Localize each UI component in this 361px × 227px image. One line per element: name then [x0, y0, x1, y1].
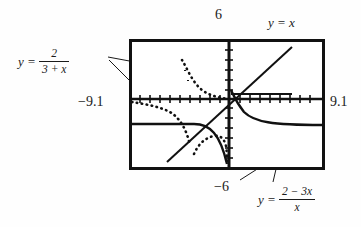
- viewport-xmin-label: −9.1: [78, 95, 103, 109]
- label-diagonal-line: y = x: [268, 16, 295, 29]
- fraction-bar-icon: [39, 61, 69, 62]
- label-bottom-right-function-fraction: 2 − 3x x: [279, 185, 315, 214]
- plot-svg: [132, 42, 322, 167]
- label-left-function: y = 2 3 + x: [18, 48, 69, 77]
- dotted-asymptote-marks: [185, 70, 188, 81]
- label-left-function-denominator: 3 + x: [39, 63, 69, 76]
- calculator-screen-plot-area: [132, 42, 322, 167]
- fraction-bar-icon: [279, 199, 315, 200]
- label-bottom-right-function-lhs: y =: [258, 192, 276, 207]
- viewport-ymin-label: −6: [214, 180, 229, 194]
- x-axis: [132, 95, 322, 103]
- label-bottom-right-function-denominator: x: [279, 201, 315, 214]
- label-left-function-fraction: 2 3 + x: [39, 47, 69, 76]
- label-left-function-lhs: y =: [18, 54, 36, 69]
- calculator-screen[interactable]: [129, 39, 325, 170]
- viewport-xmax-label: 9.1: [330, 95, 348, 109]
- label-bottom-right-function-numerator: 2 − 3x: [279, 185, 315, 198]
- label-left-function-numerator: 2: [39, 47, 69, 60]
- label-bottom-right-function: y = 2 − 3x x: [258, 186, 315, 215]
- figure-container: y = 2 3 + x y = x y = 2 − 3x x −9.1 9.1 …: [0, 0, 361, 227]
- viewport-ymax-label: 6: [215, 8, 222, 22]
